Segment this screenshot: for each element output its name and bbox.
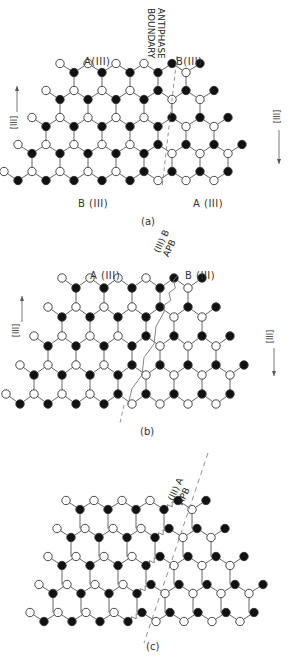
filled-atom xyxy=(168,59,176,67)
label-b-top-right: B (III) xyxy=(185,270,215,281)
open-atom xyxy=(198,313,206,321)
filled-atom xyxy=(114,313,122,321)
filled-atom xyxy=(142,390,150,398)
label-b-top-left: A (III) xyxy=(90,270,120,281)
open-atom xyxy=(245,589,253,597)
filled-atom xyxy=(138,608,146,616)
filled-atom xyxy=(175,580,183,588)
filled-atom xyxy=(128,361,136,369)
filled-atom xyxy=(222,608,230,616)
filled-atom xyxy=(170,332,178,340)
filled-atom xyxy=(194,608,202,616)
filled-atom xyxy=(142,332,150,340)
open-atom xyxy=(98,86,106,94)
open-atom xyxy=(84,167,92,175)
filled-atom xyxy=(105,589,113,597)
open-atom xyxy=(226,561,234,569)
open-atom xyxy=(42,140,50,148)
filled-atom xyxy=(86,561,94,569)
open-atom xyxy=(179,533,187,541)
filled-atom xyxy=(142,561,150,569)
open-atom xyxy=(30,390,38,398)
open-atom xyxy=(142,371,150,379)
filled-atom xyxy=(56,95,64,103)
axis-label-a-left: [III] xyxy=(10,116,19,129)
open-atom xyxy=(128,303,136,311)
open-atom xyxy=(137,524,145,532)
filled-atom xyxy=(86,313,94,321)
open-atom xyxy=(28,167,36,175)
filled-atom xyxy=(72,342,80,350)
filled-atom xyxy=(76,505,84,513)
filled-atom xyxy=(126,176,134,184)
open-atom xyxy=(182,176,190,184)
open-atom xyxy=(112,113,120,121)
filled-atom xyxy=(210,86,218,94)
filled-atom xyxy=(128,284,136,292)
filled-atom xyxy=(198,332,206,340)
filled-atom xyxy=(140,167,148,175)
open-atom xyxy=(210,122,218,130)
apb-trace-line xyxy=(120,405,124,423)
filled-atom xyxy=(231,580,239,588)
open-atom xyxy=(180,617,188,625)
caption-b: (b) xyxy=(140,426,154,437)
label-a-bottom-right: A (III) xyxy=(193,198,223,209)
open-atom xyxy=(84,113,92,121)
open-atom xyxy=(170,313,178,321)
filled-atom xyxy=(160,505,168,513)
filled-atom xyxy=(154,140,162,148)
open-atom xyxy=(58,332,66,340)
open-atom xyxy=(128,552,136,560)
filled-atom xyxy=(114,371,122,379)
open-atom xyxy=(196,149,204,157)
filled-atom xyxy=(221,524,229,532)
filled-atom xyxy=(16,400,24,408)
filled-atom xyxy=(56,149,64,157)
filled-atom xyxy=(67,533,75,541)
open-atom xyxy=(189,589,197,597)
open-atom xyxy=(114,332,122,340)
label-a-top-left: A(III) xyxy=(84,56,111,67)
lattice-figure xyxy=(0,0,306,659)
filled-atom xyxy=(100,400,108,408)
axis-arrow-a-right-head xyxy=(277,159,281,164)
filled-atom xyxy=(86,371,94,379)
caption-c: (c) xyxy=(146,641,159,652)
filled-atom xyxy=(250,608,258,616)
filled-atom xyxy=(202,496,210,504)
open-atom xyxy=(184,400,192,408)
filled-atom xyxy=(44,342,52,350)
filled-atom xyxy=(156,552,164,560)
filled-atom xyxy=(240,552,248,560)
open-atom xyxy=(184,342,192,350)
filled-atom xyxy=(212,303,220,311)
axis-arrow-a-left-head xyxy=(15,86,19,91)
filled-atom xyxy=(114,561,122,569)
filled-atom xyxy=(259,580,267,588)
filled-atom xyxy=(98,68,106,76)
filled-atom xyxy=(140,95,148,103)
axis-arrow-b-right-head xyxy=(272,371,276,376)
open-atom xyxy=(44,361,52,369)
open-atom xyxy=(56,59,64,67)
open-atom xyxy=(2,390,10,398)
open-atom xyxy=(35,580,43,588)
filled-atom xyxy=(212,552,220,560)
filled-atom xyxy=(165,524,173,532)
label-a-top-right: B(III) xyxy=(176,56,203,67)
filled-atom xyxy=(154,68,162,76)
filled-atom xyxy=(98,122,106,130)
filled-atom xyxy=(70,122,78,130)
open-atom xyxy=(0,167,8,175)
filled-atom xyxy=(184,303,192,311)
filled-atom xyxy=(112,149,120,157)
open-atom xyxy=(72,552,80,560)
open-atom xyxy=(100,552,108,560)
filled-atom xyxy=(198,390,206,398)
filled-atom xyxy=(77,589,85,597)
open-atom xyxy=(110,608,118,616)
open-atom xyxy=(184,284,192,292)
filled-atom xyxy=(123,533,131,541)
boundary-label-line2: BOUNDARY xyxy=(146,8,156,59)
